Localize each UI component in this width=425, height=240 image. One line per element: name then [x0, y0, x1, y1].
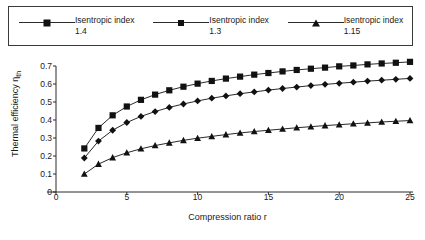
data-point-marker	[152, 92, 158, 98]
legend-entry-isentropic-1-4: Isentropic index 1.4	[19, 15, 143, 37]
data-point-marker	[350, 62, 356, 68]
square-marker-icon	[19, 17, 75, 29]
data-point-marker	[336, 63, 342, 69]
x-axis-title-text: Compression ratio r	[158, 212, 267, 222]
data-point-marker	[279, 68, 285, 74]
legend-label-line1: Isentropic index	[344, 15, 404, 25]
data-point-marker	[81, 171, 88, 177]
legend-label-line2: 1.3	[209, 26, 221, 36]
legend-label-line2: 1.15	[344, 26, 361, 36]
data-point-marker	[293, 84, 300, 91]
data-point-marker	[223, 92, 230, 99]
data-point-marker	[152, 108, 159, 115]
triangle-marker-icon	[288, 17, 344, 29]
data-series-2	[81, 75, 413, 161]
data-point-marker	[81, 145, 87, 151]
data-point-marker	[265, 70, 271, 76]
data-point-marker	[350, 79, 357, 86]
data-point-marker	[392, 76, 399, 83]
data-point-marker	[166, 104, 173, 111]
data-point-marker	[336, 80, 343, 87]
legend-label: Isentropic index 1.4	[75, 15, 135, 37]
data-point-marker	[166, 87, 172, 93]
diamond-marker-icon	[153, 17, 209, 29]
data-point-marker	[379, 60, 385, 66]
data-point-marker	[265, 87, 272, 94]
data-point-marker	[237, 74, 243, 80]
data-series-layer	[81, 59, 413, 177]
data-point-marker	[195, 81, 201, 87]
chart-plot-area: Thermal efficiency ηth 00.10.20.30.40.50…	[0, 52, 425, 240]
data-point-marker	[294, 67, 300, 73]
data-point-marker	[124, 103, 130, 109]
data-point-marker	[308, 66, 314, 72]
legend-entry-isentropic-1-15: Isentropic index 1.15	[288, 15, 412, 37]
data-point-marker	[407, 59, 413, 65]
data-point-marker	[95, 161, 102, 167]
data-series-3	[81, 117, 413, 177]
data-point-marker	[237, 90, 244, 97]
legend-entry-isentropic-1-3: Isentropic index 1.3	[153, 15, 277, 37]
data-point-marker	[251, 72, 257, 78]
data-point-marker	[180, 101, 187, 108]
data-point-marker	[138, 113, 145, 120]
data-point-marker	[407, 117, 414, 123]
data-point-marker	[123, 119, 130, 126]
data-point-marker	[307, 82, 314, 89]
data-point-marker	[378, 77, 385, 84]
data-point-marker	[322, 65, 328, 71]
data-point-marker	[223, 76, 229, 82]
data-point-marker	[138, 97, 144, 103]
data-point-marker	[110, 112, 116, 118]
data-point-marker	[208, 95, 215, 102]
legend: Isentropic index 1.4 Isentropic index 1.…	[8, 6, 413, 46]
data-point-marker	[95, 125, 101, 131]
data-point-marker	[364, 78, 371, 85]
legend-label-line1: Isentropic index	[75, 15, 135, 25]
legend-label: Isentropic index 1.15	[344, 15, 404, 37]
data-point-marker	[209, 78, 215, 84]
data-point-marker	[407, 75, 414, 82]
data-series-1	[81, 59, 413, 152]
data-point-marker	[180, 84, 186, 90]
legend-label: Isentropic index 1.3	[209, 15, 269, 37]
data-point-marker	[393, 60, 399, 66]
data-point-marker	[364, 61, 370, 67]
legend-label-line1: Isentropic index	[209, 15, 269, 25]
data-point-marker	[322, 81, 329, 88]
axes	[47, 66, 413, 195]
data-point-marker	[251, 89, 258, 96]
legend-label-line2: 1.4	[75, 26, 87, 36]
data-point-marker	[279, 85, 286, 92]
x-axis-title: Compression ratio r	[0, 212, 425, 222]
data-point-marker	[194, 98, 201, 105]
